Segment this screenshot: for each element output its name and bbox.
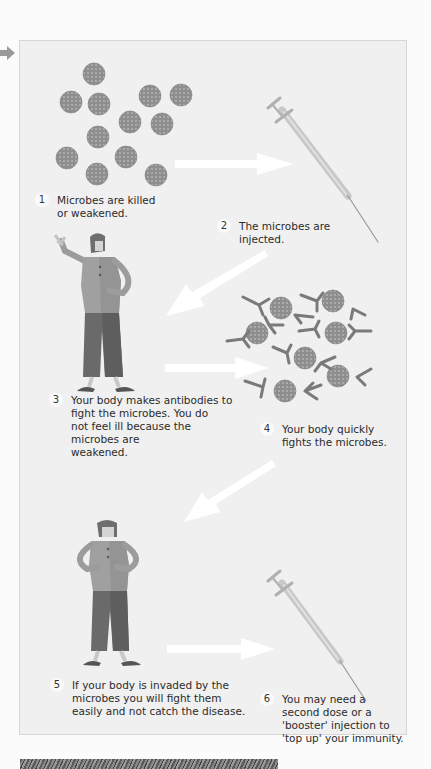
photo-strip xyxy=(20,759,278,769)
person-icon xyxy=(65,519,155,669)
step-3: 3 Your body makes antibodies to fight th… xyxy=(49,394,232,459)
antibody-icon xyxy=(227,293,371,399)
vaccination-process-panel: 1 Microbes are killed or weakened. 2 The… xyxy=(19,40,407,735)
step-text: Your body quickly fights the microbes. xyxy=(282,423,387,449)
step-text: Microbes are killed or weakened. xyxy=(57,194,155,220)
step-text: Your body makes antibodies to fight the … xyxy=(71,394,232,459)
step-4: 4 Your body quickly fights the microbes. xyxy=(260,423,387,449)
step-number: 3 xyxy=(49,393,63,407)
step-text: You may need a second dose or a 'booster… xyxy=(282,693,404,745)
step-2: 2 The microbes are injected. xyxy=(217,220,330,246)
step-number: 2 xyxy=(217,219,231,233)
step-text: The microbes are injected. xyxy=(239,220,330,246)
person-icon xyxy=(45,231,145,396)
step-6: 6 You may need a second dose or a 'boost… xyxy=(260,693,404,745)
step-1: 1 Microbes are killed or weakened. xyxy=(35,194,155,220)
step-number: 1 xyxy=(35,193,49,207)
arrow-icon xyxy=(180,456,280,526)
arrow-icon xyxy=(167,636,277,662)
antibody-microbe-cluster-icon xyxy=(225,273,405,413)
step-number: 4 xyxy=(260,422,274,436)
step-5: 5 If your body is invaded by the microbe… xyxy=(50,679,245,718)
step-number: 5 xyxy=(50,678,64,692)
microbe-cluster-icon xyxy=(50,59,220,199)
step-text: If your body is invaded by the microbes … xyxy=(72,679,245,718)
page-pointer-arrow-icon xyxy=(0,46,16,60)
step-number: 6 xyxy=(260,692,274,706)
